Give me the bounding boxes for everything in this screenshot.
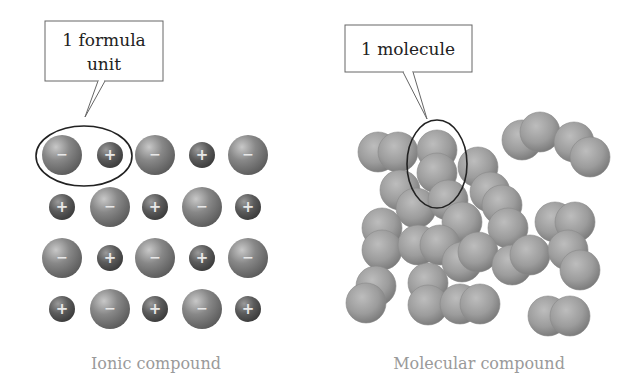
plus-sign-icon: + (242, 198, 255, 216)
anion-ion: − (135, 238, 175, 278)
anion-ion: − (135, 135, 175, 175)
formula-unit-callout: 1 formula unit (45, 21, 163, 117)
anion-ion: − (90, 187, 130, 227)
callout-line1: 1 molecule (361, 39, 455, 59)
callout-line2: unit (87, 54, 121, 74)
diatomic-molecule (362, 208, 402, 270)
molecular-panel: 1 molecule Molecular compound (345, 25, 610, 373)
ionic-panel: 1 formula unit −+−+−+−+−+−+−+−+−+−+ Ioni… (36, 21, 268, 373)
plus-sign-icon: + (56, 198, 69, 216)
diatomic-molecule (358, 132, 418, 172)
minus-sign-icon: − (196, 198, 208, 214)
cation-ion: + (235, 194, 261, 220)
molecule-callout: 1 molecule (345, 25, 472, 119)
diagram-canvas: 1 formula unit −+−+−+−+−+−+−+−+−+−+ Ioni… (0, 0, 623, 388)
minus-sign-icon: − (56, 146, 68, 162)
cation-ion: + (142, 296, 168, 322)
cation-ion: + (235, 296, 261, 322)
diatomic-molecule (502, 112, 560, 160)
cation-ion: + (189, 142, 215, 168)
diatomic-molecule (440, 284, 500, 324)
minus-sign-icon: − (242, 249, 254, 265)
diatomic-molecule (346, 266, 396, 323)
molecular-caption: Molecular compound (393, 354, 565, 373)
cation-ion: + (97, 245, 123, 271)
minus-sign-icon: − (56, 249, 68, 265)
minus-sign-icon: − (104, 300, 116, 316)
plus-sign-icon: + (196, 146, 209, 164)
anion-ion: − (228, 135, 268, 175)
plus-sign-icon: + (104, 146, 117, 164)
ion-lattice: −+−+−+−+−+−+−+−+−+−+ (42, 135, 268, 329)
plus-sign-icon: + (242, 300, 255, 318)
cation-ion: + (49, 296, 75, 322)
plus-sign-icon: + (149, 300, 162, 318)
plus-sign-icon: + (149, 198, 162, 216)
anion-ion: − (42, 238, 82, 278)
plus-sign-icon: + (196, 249, 209, 267)
minus-sign-icon: − (104, 198, 116, 214)
ionic-caption: Ionic compound (91, 354, 221, 373)
diatomic-molecule (408, 263, 448, 325)
cation-ion: + (142, 194, 168, 220)
minus-sign-icon: − (196, 300, 208, 316)
cation-ion: + (97, 142, 123, 168)
anion-ion: − (90, 289, 130, 329)
plus-sign-icon: + (104, 249, 117, 267)
minus-sign-icon: − (242, 146, 254, 162)
plus-sign-icon: + (56, 300, 69, 318)
diatomic-molecule (528, 296, 590, 336)
callout-line1: 1 formula (62, 30, 146, 50)
anion-ion: − (42, 135, 82, 175)
anion-ion: − (228, 238, 268, 278)
minus-sign-icon: − (149, 249, 161, 265)
anion-ion: − (182, 187, 222, 227)
molecule-cluster (346, 112, 610, 336)
cation-ion: + (49, 194, 75, 220)
diatomic-molecule (548, 230, 600, 290)
anion-ion: − (182, 289, 222, 329)
cation-ion: + (189, 245, 215, 271)
minus-sign-icon: − (149, 146, 161, 162)
diatomic-molecule (554, 122, 610, 177)
